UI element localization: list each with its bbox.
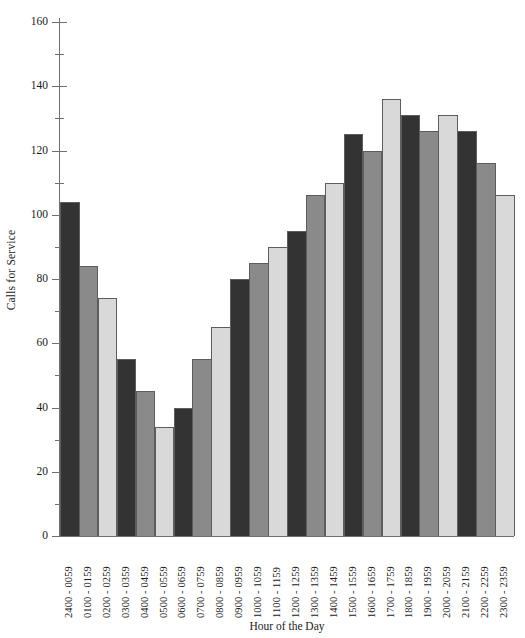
x-axis-tick-label: 1100 - 1159 <box>271 540 282 618</box>
y-axis-tick-label: 80 <box>8 273 48 285</box>
x-axis-tick-label: 2300 - 2359 <box>498 540 509 618</box>
bar <box>98 298 118 536</box>
bar <box>117 359 137 536</box>
bar <box>344 134 364 536</box>
bar <box>495 195 515 536</box>
bar <box>325 183 345 536</box>
y-axis-title-label: Calls for Service <box>5 230 17 311</box>
bar <box>79 266 99 536</box>
x-axis-line <box>59 536 514 537</box>
y-axis-tick-label: 60 <box>8 338 48 350</box>
y-axis-tick-label: 100 <box>8 209 48 221</box>
bar <box>476 163 496 536</box>
x-axis-tick-label: 0300 - 0359 <box>120 540 131 618</box>
x-axis-tick-label: 0600 - 0659 <box>176 540 187 618</box>
y-axis-tick-label: 140 <box>8 81 48 93</box>
bar <box>136 391 156 536</box>
y-axis-tick-label: 160 <box>8 16 48 28</box>
calls-for-service-bar-chart: Calls for Service 020406080100120140160 … <box>0 0 525 638</box>
x-axis-tick-label: 2000 - 2059 <box>441 540 452 618</box>
x-axis-tick-label: 2200 - 2259 <box>479 540 490 618</box>
x-axis-tick-label: 0200 - 0259 <box>101 540 112 618</box>
y-axis-tick-label: 40 <box>8 402 48 414</box>
y-axis-tick-label: 120 <box>8 145 48 157</box>
x-axis-tick-label: 0400 - 0459 <box>139 540 150 618</box>
x-axis-tick-label: 1000 - 1059 <box>252 540 263 618</box>
bar <box>382 99 402 536</box>
bar <box>268 247 288 536</box>
x-axis-title-label: Hour of the Day <box>249 620 324 632</box>
bar <box>174 408 194 537</box>
bar <box>192 359 212 536</box>
bar <box>211 327 231 536</box>
x-axis-tick-label: 0100 - 0159 <box>82 540 93 618</box>
bar <box>249 263 269 536</box>
x-axis-title: Hour of the Day <box>60 620 514 632</box>
bar <box>438 115 458 536</box>
x-axis-tick-label: 1400 - 1459 <box>328 540 339 618</box>
bar <box>401 115 421 536</box>
x-axis-tick-labels: 2400 - 00590100 - 01590200 - 02590300 - … <box>60 540 514 618</box>
plot-area <box>60 22 514 536</box>
x-axis-tick-label: 1700 - 1759 <box>385 540 396 618</box>
y-axis-tick-label: 20 <box>8 466 48 478</box>
x-axis-tick-label: 0500 - 0559 <box>158 540 169 618</box>
x-axis-tick-label: 1800 - 1859 <box>403 540 414 618</box>
x-axis-tick-label: 1200 - 1259 <box>290 540 301 618</box>
x-axis-tick-label: 1900 - 1959 <box>422 540 433 618</box>
bar <box>363 151 383 537</box>
x-axis-tick-label: 1300 - 1359 <box>309 540 320 618</box>
bar <box>155 427 175 536</box>
x-axis-tick-label: 0800 - 0859 <box>214 540 225 618</box>
bar <box>457 131 477 536</box>
bar <box>230 279 250 536</box>
bar <box>419 131 439 536</box>
y-axis-tick-label: 0 <box>8 530 48 542</box>
y-axis-tick <box>52 536 67 537</box>
x-axis-tick-label: 1600 - 1659 <box>366 540 377 618</box>
bar <box>287 231 307 536</box>
x-axis-tick-label: 1500 - 1559 <box>347 540 358 618</box>
x-axis-tick-label: 2100 - 2159 <box>460 540 471 618</box>
x-axis-tick-label: 0700 - 0759 <box>195 540 206 618</box>
x-axis-tick-label: 0900 - 0959 <box>233 540 244 618</box>
bar <box>60 202 80 536</box>
x-axis-tick-label: 2400 - 0059 <box>63 540 74 618</box>
bar <box>306 195 326 536</box>
